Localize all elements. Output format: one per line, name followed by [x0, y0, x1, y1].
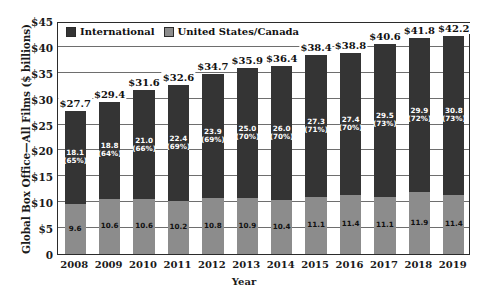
x-axis-tick-label: 2010 [129, 259, 157, 270]
x-axis-tick-label: 2012 [198, 259, 226, 270]
stacked-bar-chart: Global Box Office—All Films ($ billions)… [0, 0, 488, 299]
x-axis-tick-label: 2017 [370, 259, 398, 270]
x-axis-tick-label: 2019 [439, 259, 467, 270]
legend-item[interactable]: International [66, 26, 155, 37]
legend-label: United States/Canada [178, 26, 300, 37]
x-axis-tick-label: 2018 [404, 259, 432, 270]
x-axis-tick-label: 2013 [232, 259, 260, 270]
x-axis-title: Year [0, 276, 488, 287]
x-axis-tick-label: 2016 [336, 259, 364, 270]
x-axis-tick-label: 2008 [60, 259, 88, 270]
x-axis-tick-label: 2009 [95, 259, 123, 270]
legend-swatch-icon [66, 27, 76, 37]
x-axis-tick-label: 2014 [267, 259, 295, 270]
legend-label: International [80, 26, 155, 37]
x-axis-tick-label: 2011 [164, 259, 192, 270]
x-axis-tick-label: 2015 [301, 259, 329, 270]
legend-item[interactable]: United States/Canada [164, 26, 300, 37]
chart-legend: InternationalUnited States/Canada [63, 25, 302, 38]
legend-swatch-icon [164, 27, 174, 37]
x-axis-tick-labels: 2008200920102011201220132014201520162017… [0, 0, 488, 299]
